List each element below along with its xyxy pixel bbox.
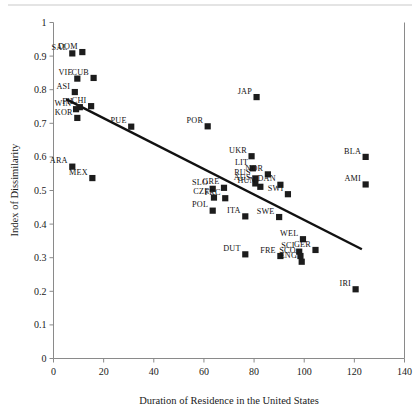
data-point-marker: [221, 185, 227, 191]
x-axis-tick-label: 20: [99, 366, 109, 377]
data-point-marker: [257, 184, 263, 190]
data-point-label: WIN: [54, 99, 71, 108]
y-axis-tick-label: 0.3: [34, 252, 47, 263]
data-point-marker: [353, 286, 359, 292]
data-point-label: UKR: [229, 146, 247, 155]
y-axis-tick-label: 0.6: [34, 151, 47, 162]
x-axis-tick-label: 80: [249, 366, 259, 377]
data-point-marker: [91, 75, 97, 81]
data-point-marker: [210, 208, 216, 214]
data-point-label: ENG: [280, 251, 297, 260]
x-axis-title: Duration of Residence in the United Stat…: [139, 395, 319, 406]
data-point-label: POL: [192, 200, 208, 209]
x-axis-tick-label: 140: [397, 366, 412, 377]
data-point-label: CHI: [72, 96, 87, 105]
data-point-label: BLA: [344, 147, 361, 156]
x-axis-tick-label: 0: [51, 366, 56, 377]
y-axis-tick-label: 0.8: [34, 84, 47, 95]
data-point-marker: [253, 94, 259, 100]
data-point-marker: [128, 124, 134, 130]
data-point-label: SWE: [257, 207, 275, 216]
data-point-label: GER: [294, 240, 311, 249]
data-point-marker: [285, 191, 291, 197]
y-axis-title: Index of Dissimilarity: [9, 143, 20, 236]
y-axis-tick-label: 0.5: [34, 185, 47, 196]
data-point-label: ASI: [56, 82, 70, 91]
data-points-layer: [69, 49, 369, 292]
x-axis-tick-label: 60: [199, 366, 209, 377]
data-point-label: IRI: [339, 279, 351, 288]
y-axis-tick-label: 0.4: [34, 219, 47, 230]
data-point-marker: [88, 103, 94, 109]
x-axis-tick-label: 100: [297, 366, 312, 377]
data-point-label: DUT: [223, 244, 240, 253]
data-point-marker: [74, 115, 80, 121]
data-point-label: KOR: [55, 108, 73, 117]
x-axis-tick-label: 40: [149, 366, 159, 377]
chart-canvas: 00.10.20.30.40.50.60.70.80.9102040608010…: [0, 0, 420, 420]
data-point-marker: [312, 247, 318, 253]
scatter-plot-figure: 00.10.20.30.40.50.60.70.80.9102040608010…: [0, 0, 420, 420]
data-point-label: MEX: [69, 168, 88, 177]
data-point-label: FRE: [260, 246, 276, 255]
data-point-marker: [363, 154, 369, 160]
data-point-label: GRE: [202, 177, 219, 186]
x-axis-tick-label: 120: [347, 366, 362, 377]
data-point-label: SWI: [268, 184, 284, 193]
y-axis-tick-label: 0.1: [34, 319, 47, 330]
data-point-label: ARA: [50, 156, 68, 165]
data-point-marker: [299, 259, 305, 265]
data-point-label: AMI: [345, 174, 362, 183]
data-point-label: ITA: [227, 206, 241, 215]
data-point-label: JAP: [238, 87, 252, 96]
data-point-marker: [73, 106, 79, 112]
data-point-marker: [363, 181, 369, 187]
data-point-label: WEL: [280, 229, 298, 238]
data-point-marker: [69, 50, 75, 56]
y-axis-tick-label: 0.2: [34, 286, 47, 297]
data-point-label: DOM: [58, 42, 78, 51]
data-point-marker: [222, 195, 228, 201]
data-point-marker: [205, 123, 211, 129]
data-point-label: CUB: [72, 68, 90, 77]
y-axis-tick-label: 0.9: [34, 51, 47, 62]
y-axis-tick-label: 1: [42, 17, 47, 28]
data-point-label: POR: [187, 116, 204, 125]
data-point-marker: [79, 49, 85, 55]
y-axis-tick-label: 0: [42, 353, 47, 364]
y-axis-tick-label: 0.7: [34, 118, 47, 129]
data-point-label: FRC: [205, 188, 221, 197]
data-point-marker: [242, 251, 248, 257]
data-point-label: PUE: [111, 116, 127, 125]
data-point-label: DAN: [257, 174, 275, 183]
data-point-label: HUN: [237, 176, 255, 185]
data-point-marker: [276, 214, 282, 220]
data-point-marker: [242, 213, 248, 219]
data-point-marker: [89, 175, 95, 181]
data-point-marker: [72, 89, 78, 95]
data-point-marker: [248, 153, 254, 159]
data-point-marker: [297, 253, 303, 259]
